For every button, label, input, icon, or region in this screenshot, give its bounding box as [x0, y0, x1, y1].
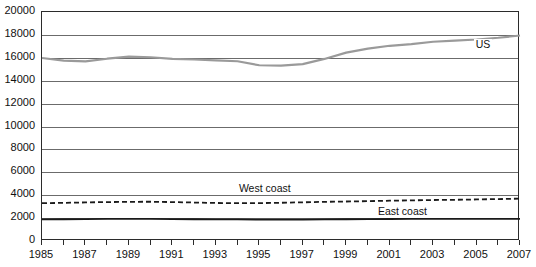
x-axis-tick-label: 1993 [197, 249, 233, 260]
x-axis-tick [84, 240, 85, 245]
series-line-east-coast [42, 219, 520, 220]
y-axis-tick-label: 8000 [0, 142, 35, 153]
x-axis-tick [345, 240, 346, 245]
x-axis-tick [476, 240, 477, 245]
x-axis-tick [237, 240, 238, 245]
x-axis-tick-label: 1991 [153, 249, 189, 260]
x-axis-tick [215, 240, 216, 245]
x-axis-tick [63, 240, 64, 245]
x-axis-tick-label: 1989 [110, 249, 146, 260]
y-axis-tick-label: 10000 [0, 120, 35, 131]
x-axis-tick [193, 240, 194, 245]
y-axis-tick-label: 4000 [0, 188, 35, 199]
plot-area [41, 11, 519, 240]
x-axis-tick [171, 240, 172, 245]
x-axis-tick [302, 240, 303, 245]
x-axis-tick [258, 240, 259, 245]
x-axis-tick-label: 1985 [23, 249, 59, 260]
x-axis-tick [454, 240, 455, 245]
y-axis-tick-label: 14000 [0, 74, 35, 85]
series-label-us: US [474, 39, 493, 50]
x-axis-tick [519, 240, 520, 245]
series-layer [42, 12, 520, 241]
series-label-east-coast: East coast [376, 206, 429, 217]
x-axis-tick-label: 1999 [327, 249, 363, 260]
x-axis-tick-label: 1997 [284, 249, 320, 260]
y-axis-tick-label: 16000 [0, 51, 35, 62]
x-axis-tick-label: 1995 [240, 249, 276, 260]
x-axis-tick [367, 240, 368, 245]
x-axis-tick-label: 2003 [414, 249, 450, 260]
x-axis-tick [389, 240, 390, 245]
y-axis-tick-label: 12000 [0, 97, 35, 108]
x-axis-tick [128, 240, 129, 245]
x-axis-tick-label: 1987 [66, 249, 102, 260]
x-axis-tick [280, 240, 281, 245]
x-axis-tick [410, 240, 411, 245]
y-axis-tick-label: 0 [0, 234, 35, 245]
x-axis-tick-label: 2007 [501, 249, 536, 260]
x-axis-tick [497, 240, 498, 245]
y-axis-tick-label: 6000 [0, 165, 35, 176]
series-line-west-coast [42, 199, 520, 204]
y-axis-tick-label: 18000 [0, 28, 35, 39]
series-line-us [42, 35, 520, 65]
x-axis-tick [106, 240, 107, 245]
y-axis-tick-label: 2000 [0, 211, 35, 222]
x-axis-tick-label: 2001 [371, 249, 407, 260]
x-axis-tick [432, 240, 433, 245]
x-axis-tick [150, 240, 151, 245]
y-axis-tick-label: 20000 [0, 5, 35, 16]
x-axis-tick [323, 240, 324, 245]
x-axis-tick [41, 240, 42, 245]
x-axis-tick-label: 2005 [458, 249, 494, 260]
series-label-west-coast: West coast [237, 183, 293, 194]
